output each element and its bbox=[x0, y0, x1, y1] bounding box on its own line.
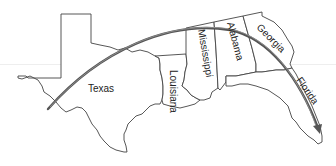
label-texas: Texas bbox=[88, 83, 114, 94]
label-louisiana: Louisiana bbox=[168, 70, 179, 113]
gulf-states-map: Texas Louisiana Mississippi Alabama Geor… bbox=[0, 0, 336, 166]
